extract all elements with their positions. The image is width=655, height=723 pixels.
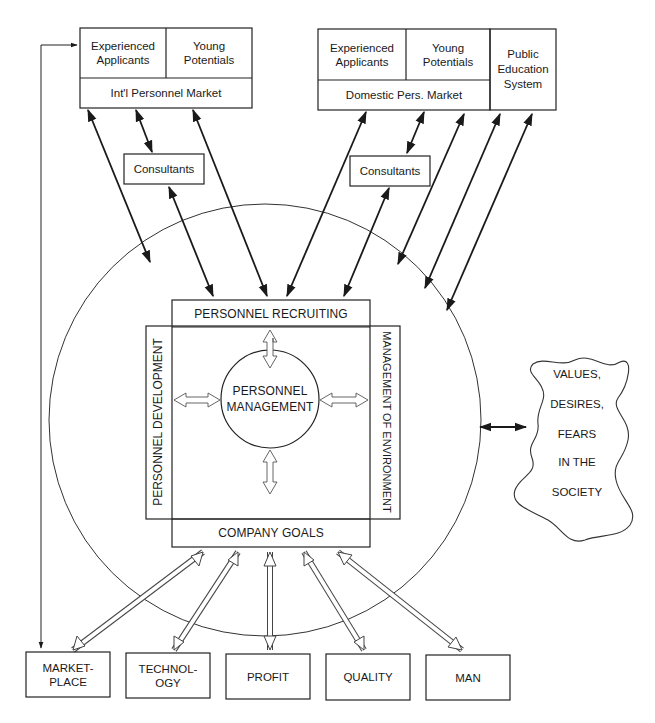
label-line: Experienced (91, 39, 155, 53)
society-line-5: SOCIETY (522, 486, 632, 498)
label-line: TECHNOL- (139, 662, 198, 676)
factor-technology: TECHNOL- OGY (126, 653, 210, 698)
society-line-3: FEARS (522, 428, 632, 440)
label-line: Potentials (184, 53, 235, 67)
recruiting-arrows-right (287, 112, 532, 310)
label-line: System (504, 77, 542, 92)
label-line: OGY (155, 676, 181, 690)
society-line-2: DESIRES, (522, 398, 632, 410)
label-line: Applicants (96, 53, 149, 67)
factor-profit: PROFIT (226, 654, 310, 699)
society-line-1: VALUES, (522, 368, 632, 380)
management-of-environment: MANAGEMENT OF ENVIRONMENT (377, 327, 393, 517)
label-line: Young (432, 41, 464, 55)
label-line: PERSONNEL (233, 383, 308, 399)
intl-market-title: Int'l Personnel Market (80, 78, 252, 108)
domestic-young-potentials: Young Potentials (406, 29, 490, 80)
personnel-recruiting: PERSONNEL RECRUITING (172, 300, 370, 327)
label-line: Applicants (335, 55, 388, 69)
intl-young-potentials: Young Potentials (166, 28, 252, 78)
factor-man: MAN (426, 655, 510, 700)
label-line: MANAGEMENT (226, 399, 313, 415)
public-education-system: Public Education System (490, 29, 556, 110)
label-line: Young (193, 39, 225, 53)
personnel-development: PERSONNEL DEVELOPMENT (151, 327, 167, 517)
factor-marketplace: MARKET- PLACE (26, 652, 110, 697)
society-line-4: IN THE (522, 456, 632, 468)
label-line: Public (507, 47, 538, 62)
society-cloud (514, 358, 633, 541)
label-line: MARKET- (42, 661, 93, 675)
label-line: Potentials (423, 55, 474, 69)
label-line: Experienced (330, 41, 394, 55)
label-line: PLACE (49, 675, 87, 689)
consultants-left: Consultants (124, 154, 204, 184)
company-goals: COMPANY GOALS (172, 519, 370, 547)
intl-experienced-applicants: Experienced Applicants (80, 28, 166, 78)
consultants-right: Consultants (350, 156, 430, 186)
domestic-market-title: Domestic Pers. Market (318, 80, 490, 110)
domestic-experienced-applicants: Experienced Applicants (318, 29, 406, 80)
factor-hollow-arrows (73, 552, 462, 650)
recruiting-arrows-left (88, 110, 267, 296)
label-line: Education (497, 62, 548, 77)
factor-quality: QUALITY (326, 654, 410, 700)
personnel-management: PERSONNEL MANAGEMENT (221, 380, 319, 418)
